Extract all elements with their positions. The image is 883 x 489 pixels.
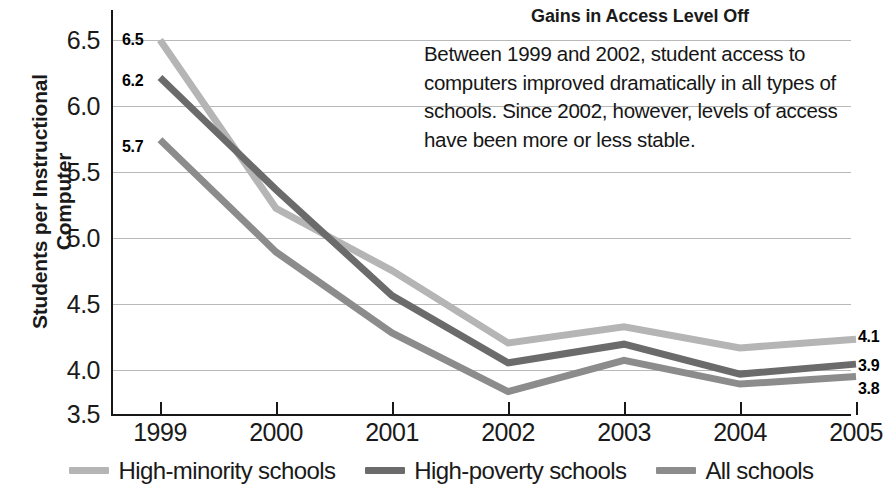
y-tick-label: 5.0 <box>38 226 100 251</box>
start-label-high-minority: 6.5 <box>122 31 143 49</box>
y-tick-label: 4.5 <box>38 292 100 317</box>
x-tick-label: 2001 <box>337 418 447 447</box>
x-tick-label: 2000 <box>221 418 331 447</box>
end-label-high-poverty: 3.9 <box>858 357 879 375</box>
y-tick-label: 4.0 <box>38 358 100 383</box>
legend-label: High-minority schools <box>118 457 335 485</box>
legend-item-all-schools[interactable]: All schools <box>656 457 813 485</box>
start-label-high-poverty: 6.2 <box>122 72 143 90</box>
chart-legend: High-minority schools High-poverty schoo… <box>0 452 883 489</box>
start-label-all-schools: 5.7 <box>122 138 143 156</box>
chart-title: Gains in Access Level Off <box>420 6 860 27</box>
x-tick-label: 2003 <box>569 418 679 447</box>
chart-figure: Students per Instructional Computer 6.5 … <box>0 0 883 489</box>
x-tick-label: 2002 <box>453 418 563 447</box>
x-tick-label: 1999 <box>105 418 215 447</box>
y-tick-label: 6.0 <box>38 94 100 119</box>
legend-item-high-poverty[interactable]: High-poverty schools <box>365 457 626 485</box>
legend-label: All schools <box>705 457 813 485</box>
legend-swatch-icon <box>69 467 109 474</box>
y-tick-label: 5.5 <box>38 160 100 185</box>
legend-label: High-poverty schools <box>414 457 626 485</box>
legend-swatch-icon <box>656 467 696 474</box>
end-label-all-schools: 3.8 <box>858 380 879 398</box>
y-tick-label: 6.5 <box>38 28 100 53</box>
end-label-high-minority: 4.1 <box>858 328 879 346</box>
y-axis-tick-labels: 6.5 6.0 5.5 5.0 4.5 4.0 3.5 <box>38 0 100 489</box>
x-tick-label: 2004 <box>685 418 795 447</box>
x-tick-label: 2005 <box>801 418 883 447</box>
x-tick-mark <box>856 402 858 415</box>
chart-annotation: Between 1999 and 2002, student access to… <box>424 40 854 155</box>
legend-swatch-icon <box>365 467 405 474</box>
legend-item-high-minority[interactable]: High-minority schools <box>69 457 335 485</box>
y-tick-label: 3.5 <box>38 402 100 427</box>
